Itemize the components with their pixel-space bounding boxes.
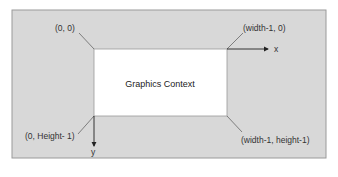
graphics-context-diagram: (0, 0) (width-1, 0) (0, Height- 1) (widt… xyxy=(0,0,338,177)
label-bottom-left: (0, Height- 1) xyxy=(25,131,75,141)
diagram-title: Graphics Context xyxy=(125,79,195,89)
label-bottom-right: (width-1, height-1) xyxy=(241,135,310,145)
label-top-right: (width-1, 0) xyxy=(243,23,286,33)
label-top-left: (0, 0) xyxy=(55,23,75,33)
